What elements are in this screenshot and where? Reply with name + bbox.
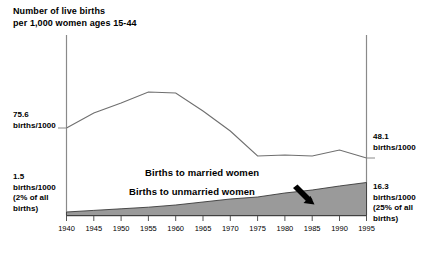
married-series-annotation: Births to married women <box>145 167 259 178</box>
x-tick-label-1965: 1965 <box>195 224 212 233</box>
x-tick-label-1945: 1945 <box>85 224 102 233</box>
x-tick-label-1940: 1940 <box>58 224 75 233</box>
chart-plot-svg <box>0 0 435 254</box>
x-tick-label-1955: 1955 <box>140 224 157 233</box>
x-tick-label-1975: 1975 <box>249 224 266 233</box>
left-bottom-value-label: 1.5 births/1000 (2% of all births) <box>13 172 56 214</box>
x-tick-label-1980: 1980 <box>277 224 294 233</box>
x-tick-label-1985: 1985 <box>304 224 321 233</box>
x-tick-label-1990: 1990 <box>331 224 348 233</box>
x-tick-label-1970: 1970 <box>222 224 239 233</box>
married-births-line <box>67 92 367 158</box>
x-tick-label-1950: 1950 <box>113 224 130 233</box>
x-tick-label-1960: 1960 <box>167 224 184 233</box>
right-top-value-label: 48.1 births/1000 <box>373 132 416 153</box>
x-tick-label-1995: 1995 <box>358 224 375 233</box>
right-bottom-value-label: 16.3 births/1000 (25% of all births) <box>373 182 416 224</box>
unmarried-series-annotation: Births to unmarried women <box>129 186 255 197</box>
chart-container: Number of live births per 1,000 women ag… <box>0 0 435 254</box>
left-top-value-label: 75.6 births/1000 <box>13 110 56 131</box>
